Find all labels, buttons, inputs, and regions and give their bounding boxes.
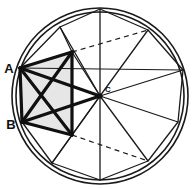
center-point-marker [97, 93, 102, 98]
figure-canvas: A B C [0, 0, 192, 189]
decagon-edge [52, 163, 100, 180]
radius-line [100, 70, 183, 96]
decagon-edge [148, 122, 178, 161]
label-point-c: C [105, 85, 111, 94]
radius-line [100, 96, 148, 161]
dashed-line [72, 135, 148, 161]
decagon-edge [60, 9, 100, 27]
radius-line [100, 96, 178, 122]
geometry-figure: A B C [0, 0, 192, 189]
decagon-edge [148, 30, 183, 70]
dashed-construction-lines [72, 30, 148, 161]
thin-chord [72, 52, 100, 96]
label-point-b: B [6, 117, 15, 132]
label-point-a: A [4, 61, 14, 76]
dashed-line [72, 30, 148, 52]
thin-chord [52, 135, 72, 163]
thin-chord [60, 27, 72, 52]
bold-chord [20, 68, 22, 122]
